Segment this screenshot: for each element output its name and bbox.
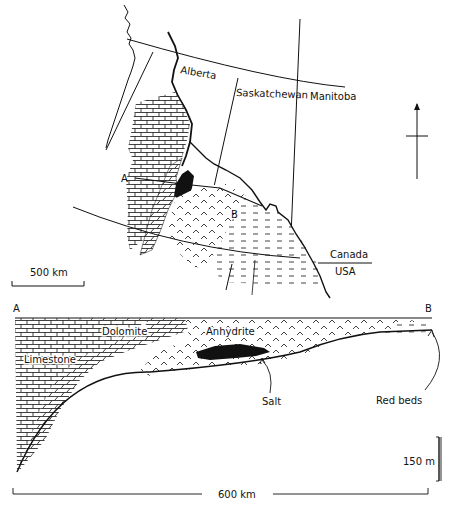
salt-leader-arrow — [262, 360, 271, 393]
map-point-a: A — [121, 173, 128, 184]
redbeds-leader-arrow — [425, 332, 440, 390]
map-point-b: B — [231, 209, 238, 220]
limestone-label: Limestone — [24, 354, 76, 365]
canada-label: Canada — [330, 249, 368, 260]
sask-manitoba-boundary — [290, 19, 300, 260]
vertical-scale-label: 150 m — [403, 456, 435, 467]
cross-section: A B Dolomite Anhydrite Limestone Salt Re… — [13, 303, 441, 500]
section-point-b: B — [425, 303, 432, 314]
map: A B Canada USA Alberta Saskatchewan Mani… — [12, 5, 428, 298]
coastline — [106, 5, 135, 148]
horizontal-scale-bar-left — [13, 488, 202, 494]
red-beds-label: Red beds — [376, 395, 422, 406]
horizontal-scale-label: 600 km — [218, 489, 256, 500]
alberta-label: Alberta — [180, 64, 218, 81]
horizontal-scale-bar-right — [273, 488, 428, 494]
map-scale-label: 500 km — [30, 267, 68, 278]
vertical-scale-bar — [436, 437, 441, 481]
map-scale-bar — [12, 281, 84, 286]
northern-border — [127, 39, 345, 87]
section-point-a: A — [13, 303, 20, 314]
manitoba-label: Manitoba — [310, 91, 356, 102]
saskatchewan-label: Saskatchewan — [236, 87, 308, 101]
north-arrow-icon — [406, 103, 428, 179]
geologic-figure: A B Canada USA Alberta Saskatchewan Mani… — [0, 0, 453, 508]
anhydrite-label: Anhydrite — [206, 326, 255, 337]
dolomite-label: Dolomite — [102, 326, 147, 337]
salt-label: Salt — [262, 396, 281, 407]
usa-label: USA — [335, 266, 356, 277]
